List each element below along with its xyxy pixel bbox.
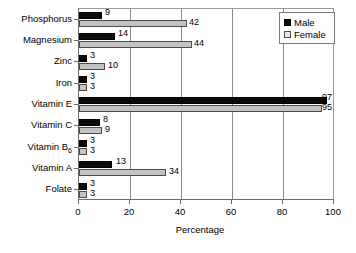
y-tick-label-vitamin-a: Vitamin A xyxy=(32,163,72,173)
y-tick-label-phosphorus: Phosphorus xyxy=(21,14,72,24)
y-tick-mark xyxy=(74,189,78,190)
x-tick-label-60: 60 xyxy=(216,206,246,217)
y-tick-label-zinc: Zinc xyxy=(54,56,72,66)
bar-value-male: 8 xyxy=(103,115,108,124)
y-tick-mark xyxy=(74,61,78,62)
y-tick-label-vitamin-e: Vitamin E xyxy=(32,99,72,109)
y-tick-mark xyxy=(74,147,78,148)
bar-female[interactable] xyxy=(79,84,87,91)
bar-value-male: 3 xyxy=(90,51,95,60)
bar-female[interactable] xyxy=(79,191,87,198)
bar-group: 3 3 xyxy=(79,180,333,201)
x-tick-label-40: 40 xyxy=(165,206,195,217)
x-tick-label-20: 20 xyxy=(114,206,144,217)
bar-female[interactable] xyxy=(79,20,187,27)
bar-male[interactable] xyxy=(79,76,87,83)
bar-male[interactable] xyxy=(79,33,115,40)
legend-item-female[interactable]: Female xyxy=(284,28,331,40)
x-tick-mark xyxy=(78,200,79,204)
y-tick-mark xyxy=(74,168,78,169)
legend: Male Female xyxy=(279,12,335,44)
bar-value-male: 3 xyxy=(90,136,95,145)
x-tick-mark xyxy=(180,200,181,204)
y-tick-mark xyxy=(74,125,78,126)
y-tick-label-vitamin-b6: Vitamin B6 xyxy=(28,142,72,156)
bar-female[interactable] xyxy=(79,41,192,48)
bar-female[interactable] xyxy=(79,148,87,155)
y-tick-label-vitamin-b6-subscript: 6 xyxy=(68,146,72,153)
y-tick-label-iron: Iron xyxy=(56,78,72,88)
bar-group: 8 9 xyxy=(79,116,333,137)
y-tick-mark xyxy=(74,19,78,20)
bar-male[interactable] xyxy=(79,55,87,62)
bar-male[interactable] xyxy=(79,12,102,19)
bar-group: 3 10 xyxy=(79,52,333,73)
bar-group: 97 95 xyxy=(79,94,333,115)
white-square-icon xyxy=(284,31,291,38)
bar-male[interactable] xyxy=(79,140,87,147)
y-tick-mark xyxy=(74,83,78,84)
y-tick-label-magnesium: Magnesium xyxy=(23,35,72,45)
y-tick-mark xyxy=(74,104,78,105)
bar-value-female: 3 xyxy=(90,146,95,155)
x-tick-mark xyxy=(129,200,130,204)
bar-value-male: 3 xyxy=(90,179,95,188)
bar-group: 13 34 xyxy=(79,158,333,179)
bar-female[interactable] xyxy=(79,169,166,176)
bar-chart: 9 42 14 44 3 10 3 3 97 xyxy=(0,0,356,253)
bar-value-female: 95 xyxy=(322,103,332,112)
plot-area: 9 42 14 44 3 10 3 3 97 xyxy=(78,8,334,200)
bar-male[interactable] xyxy=(79,183,87,190)
legend-label-female: Female xyxy=(294,29,326,40)
bar-female[interactable] xyxy=(79,127,102,134)
bar-value-female: 10 xyxy=(108,61,118,70)
y-tick-label-vitamin-c: Vitamin C xyxy=(31,120,72,130)
bar-male[interactable] xyxy=(79,119,100,126)
bar-female[interactable] xyxy=(79,105,322,112)
bar-value-male: 97 xyxy=(322,93,332,102)
bar-value-male: 3 xyxy=(90,72,95,81)
bar-female[interactable] xyxy=(79,63,105,70)
bar-value-female: 42 xyxy=(189,18,199,27)
x-axis-title-text: Percentage xyxy=(176,224,225,235)
bar-value-female: 9 xyxy=(105,125,110,134)
x-tick-mark xyxy=(282,200,283,204)
legend-item-male[interactable]: Male xyxy=(284,16,331,28)
x-tick-mark xyxy=(333,200,334,204)
bar-male[interactable] xyxy=(79,97,327,104)
black-square-icon xyxy=(284,19,291,26)
y-tick-mark xyxy=(74,40,78,41)
bar-value-male: 9 xyxy=(105,8,110,17)
x-axis-title: Percentage xyxy=(0,224,356,235)
bar-value-male: 13 xyxy=(116,157,126,166)
bar-group: 3 3 xyxy=(79,137,333,158)
legend-label-male: Male xyxy=(294,17,315,28)
bar-value-female: 44 xyxy=(194,39,204,48)
x-tick-mark xyxy=(231,200,232,204)
y-tick-label-vitamin-b6-text: Vitamin B xyxy=(28,141,68,152)
y-tick-label-folate: Folate xyxy=(46,184,72,194)
x-tick-label-80: 80 xyxy=(267,206,297,217)
bar-value-female: 3 xyxy=(90,82,95,91)
x-tick-label-0: 0 xyxy=(63,206,93,217)
bar-group: 3 3 xyxy=(79,73,333,94)
bar-value-male: 14 xyxy=(118,29,128,38)
bar-male[interactable] xyxy=(79,161,112,168)
x-tick-label-100: 100 xyxy=(318,206,348,217)
bar-value-female: 34 xyxy=(169,167,179,176)
bar-value-female: 3 xyxy=(90,189,95,198)
